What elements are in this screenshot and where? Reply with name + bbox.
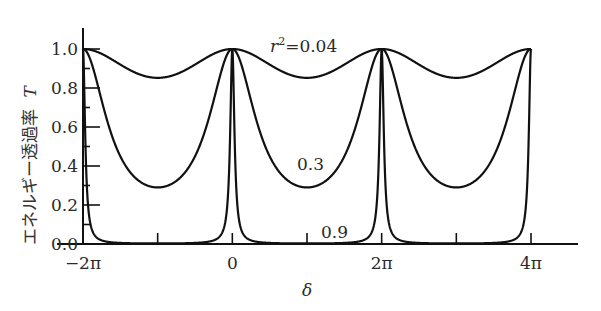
x-axis-ticks: −2π02π4π (65, 233, 542, 273)
y-tick-label: 0.6 (51, 117, 78, 137)
x-tick-label: −2π (65, 253, 101, 273)
transmission-curves (83, 49, 531, 243)
curve-label-r2-0.04: r2=0.04 (270, 35, 337, 56)
y-tick-label: 0.8 (51, 78, 78, 98)
svg-text:エネルギー透過率 T: エネルギー透過率 T (20, 85, 40, 245)
x-tick-label: 2π (371, 253, 393, 273)
y-tick-label: 0.4 (51, 156, 78, 176)
y-tick-label: 0.2 (51, 195, 78, 215)
y-tick-label: 0.0 (51, 234, 78, 254)
curve-label-0.3: 0.3 (297, 154, 324, 174)
y-axis-ticks: 0.00.20.40.60.81.0 (51, 39, 100, 254)
y-axis-label: エネルギー透過率 T (20, 85, 40, 245)
x-axis-label: δ (302, 280, 312, 300)
y-tick-label: 1.0 (51, 39, 78, 59)
x-tick-label: 4π (520, 253, 542, 273)
x-tick-label: 0 (227, 253, 238, 273)
y-axis-label-symbol: T (20, 85, 40, 98)
y-axis-label-text: エネルギー透過率 (20, 109, 40, 245)
curve-labels: r2=0.04 0.3 0.9 (270, 35, 348, 242)
curve-label-0.9: 0.9 (321, 222, 348, 242)
transmittance-chart: エネルギー透過率 T 0.00.20.40.60.81.0 −2π02π4π r… (0, 0, 601, 311)
